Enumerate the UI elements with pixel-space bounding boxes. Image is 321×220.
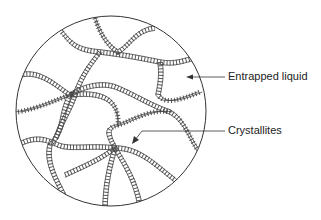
gel-structure-diagram xyxy=(0,0,321,220)
crystallites-label: Crystallites xyxy=(228,124,282,136)
leader-lines xyxy=(132,75,225,145)
entrapped-liquid-label: Entrapped liquid xyxy=(228,70,308,82)
crystallite-strands xyxy=(16,16,203,210)
